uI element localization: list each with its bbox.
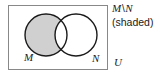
- universe-set-label: U: [114, 56, 122, 68]
- venn-diagram-figure: M N M\N (shaded) U: [0, 0, 164, 77]
- caption-set-right: N: [125, 2, 133, 14]
- caption-set-left: M: [112, 2, 121, 14]
- set-m-label: M: [23, 51, 34, 63]
- caption-expression: M\N: [112, 2, 164, 15]
- caption-note: (shaded): [112, 16, 164, 28]
- set-n-label: N: [91, 52, 100, 64]
- caption: M\N (shaded): [112, 2, 164, 28]
